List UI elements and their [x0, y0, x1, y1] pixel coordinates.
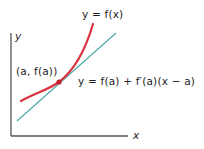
x-axis-label: x — [133, 130, 139, 141]
tangent-line-label: y = f(a) + f′(a)(x − a) — [78, 76, 195, 87]
tangency-point — [56, 79, 61, 84]
point-label: (a, f(a)) — [16, 66, 57, 77]
curve-label: y = f(x) — [82, 9, 123, 20]
y-axis-label: y — [15, 31, 21, 42]
